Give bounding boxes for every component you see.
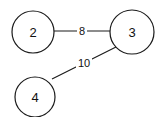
- edge-weight-3-4: 10: [78, 57, 90, 69]
- graph-diagram: 8 10 2 3 4: [0, 0, 163, 117]
- node-3: 3: [110, 10, 154, 54]
- node-label-2: 2: [29, 25, 36, 40]
- node-label-4: 4: [31, 90, 38, 105]
- node-4: 4: [15, 77, 55, 117]
- node-label-3: 3: [128, 25, 135, 40]
- node-2: 2: [12, 11, 54, 53]
- edge-weight-2-3: 8: [79, 25, 85, 37]
